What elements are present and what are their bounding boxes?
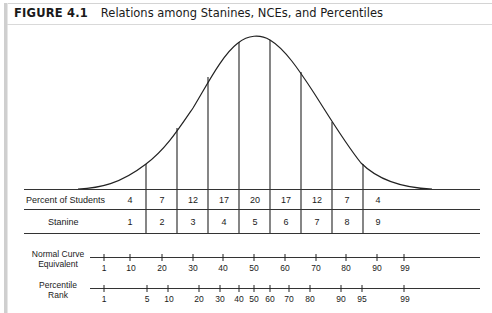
nce-tick-label: 90 (372, 263, 382, 273)
percent-value: 17 (219, 195, 229, 205)
stanine-value: 6 (283, 217, 288, 227)
stanine-value: 8 (344, 217, 349, 227)
nce-tick-label: 1 (102, 263, 107, 273)
percent-value: 20 (250, 195, 260, 205)
percentile-tick-labels: 1 5 10 20 30 40 50 60 70 80 90 95 99 (102, 294, 410, 304)
normal-curve (78, 36, 432, 189)
percent-value: 17 (281, 195, 291, 205)
stanine-value: 7 (314, 217, 319, 227)
nce-tick-label: 70 (311, 263, 321, 273)
percentile-tick-label: 20 (194, 294, 204, 304)
nce-tick-label: 20 (157, 263, 167, 273)
percentile-tick-label: 1 (102, 294, 107, 304)
percentile-tick-label: 5 (145, 294, 150, 304)
stanine-chart: Percent of Students Stanine 4 7 12 17 20… (0, 0, 492, 313)
nce-tick-label: 99 (400, 263, 410, 273)
percent-value: 7 (344, 195, 349, 205)
percentile-tick-label: 99 (400, 294, 410, 304)
nce-tick-label: 30 (188, 263, 198, 273)
row-label-percent: Percent of Students (26, 195, 106, 205)
nce-label-line2: Equivalent (38, 259, 78, 269)
percent-value: 12 (312, 195, 322, 205)
percentile-tick-label: 10 (164, 294, 174, 304)
percent-value: 4 (375, 195, 380, 205)
percent-value: 7 (159, 195, 164, 205)
stanine-value: 3 (190, 217, 195, 227)
percentile-tick-label: 50 (249, 294, 259, 304)
stanine-value: 9 (375, 217, 380, 227)
percentile-label-line2: Rank (48, 290, 69, 300)
nce-tick-label: 50 (249, 263, 259, 273)
nce-tick-label: 10 (126, 263, 136, 273)
nce-tick-labels: 1 10 20 30 40 50 60 70 80 90 99 (102, 263, 410, 273)
percentile-tick-label: 80 (305, 294, 315, 304)
nce-tick-label: 60 (280, 263, 290, 273)
percentile-tick-label: 40 (234, 294, 244, 304)
percent-value: 4 (127, 195, 132, 205)
percentile-tick-label: 90 (336, 294, 346, 304)
stanine-value: 5 (252, 217, 257, 227)
percent-values: 4 7 12 17 20 17 12 7 4 (127, 195, 380, 205)
stanine-value: 1 (127, 217, 132, 227)
nce-label-line1: Normal Curve (32, 249, 85, 259)
percent-value: 12 (188, 195, 198, 205)
nce-tick-label: 80 (341, 263, 351, 273)
percentile-tick-label: 60 (265, 294, 275, 304)
stanine-value: 2 (159, 217, 164, 227)
nce-tick-label: 40 (218, 263, 228, 273)
percentile-tick-label: 70 (284, 294, 294, 304)
stanine-values: 1 2 3 4 5 6 7 8 9 (127, 217, 380, 227)
row-label-stanine: Stanine (48, 217, 79, 227)
percentile-label-line1: Percentile (39, 280, 77, 290)
percentile-tick-label: 30 (215, 294, 225, 304)
stanine-value: 4 (221, 217, 226, 227)
percentile-tick-label: 95 (357, 294, 367, 304)
